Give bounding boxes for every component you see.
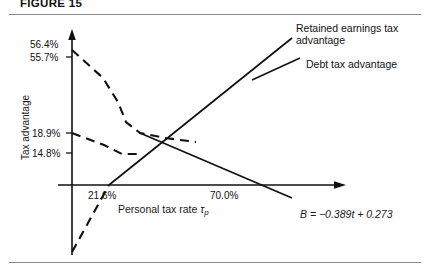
series-lower-dashed-curve [72,133,140,154]
x-tick-label-21-6: 21.6% [88,190,116,201]
y-axis-ticks [66,57,72,153]
series-label-retained-earnings-line1: Retained earnings tax [296,22,398,34]
x-axis [58,181,346,189]
series-label-retained-earnings-line2: advantage [296,34,398,46]
y-tick-label-18-9: 18.9% [32,128,60,139]
y-tick-label-14-8: 14.8% [32,148,60,159]
series-upper-dashed-curve [72,50,196,142]
series-debt-label-leader [252,58,300,80]
y-tick-label-56-4: 56.4% [30,39,58,50]
series-debt-line [140,133,292,198]
y-axis [68,29,76,255]
equation-text: B = −0.389t + 0.273 [300,208,393,220]
figure-container: FIGURE 15 56.4% 55. [0,0,430,273]
series-retained-earnings-line [109,38,292,185]
series-label-retained-earnings: Retained earnings tax advantage [296,22,398,46]
y-axis-title: Tax advantage [20,83,31,173]
series-label-debt: Debt tax advantage [306,58,397,70]
x-axis-title-subscript: p [204,208,208,217]
x-axis-title: Personal tax rate τp [118,203,209,217]
y-tick-label-55-7: 55.7% [30,52,58,63]
equation-annotation: B = −0.389t + 0.273 [300,208,393,220]
x-axis-title-text: Personal tax rate [118,203,197,215]
x-tick-label-70-0: 70.0% [210,190,238,201]
